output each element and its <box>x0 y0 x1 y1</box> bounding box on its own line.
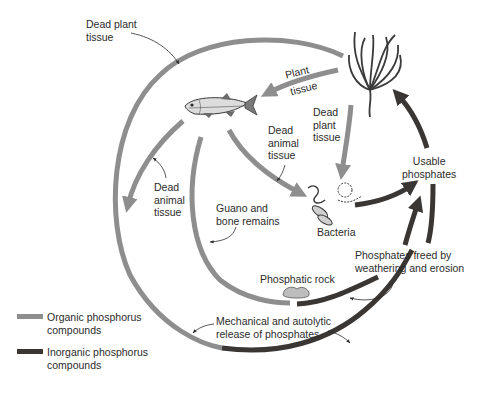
legend-swatch-organic <box>17 314 43 319</box>
label-phosphatic-rock: Phosphatic rock <box>260 273 335 286</box>
pointer-mechanical-left <box>193 324 214 333</box>
legend-swatch-inorganic <box>17 349 43 354</box>
pointer-dead-plant <box>131 33 179 64</box>
label-dead-animal-tissue-left: Dead animal tissue <box>154 181 185 219</box>
label-dead-animal-tissue-center: Dead animal tissue <box>268 124 299 162</box>
label-dead-plant-tissue-inner: Dead plant tissue <box>313 106 340 144</box>
pointer-dead-animal-left <box>153 158 166 178</box>
label-guano: Guano and bone remains <box>216 202 280 227</box>
plant-icon <box>349 32 401 117</box>
bacteria-icon <box>308 183 362 227</box>
label-phosphates-freed: Phosphates freed by weathering and erosi… <box>355 249 464 274</box>
label-mechanical-release: Mechanical and autolytic release of phos… <box>216 315 331 340</box>
usable-to-plant-arrow <box>398 95 427 148</box>
pointer-guano <box>210 227 236 242</box>
label-usable-phosphates: Usable phosphates <box>402 155 456 180</box>
dead-plant-to-bacteria-arrow <box>342 105 351 172</box>
phosphatic-rock-icon <box>283 287 309 298</box>
fish-icon <box>185 93 257 118</box>
legend-label-inorganic: Inorganic phosphorus compounds <box>47 346 148 371</box>
right-inorganic-arc <box>428 184 433 243</box>
label-bacteria: Bacteria <box>317 226 356 239</box>
weathering-to-usable-arrow <box>405 203 418 245</box>
legend-label-organic: Organic phosphorus compounds <box>47 311 142 336</box>
bacteria-to-usable-arrow <box>355 185 412 205</box>
label-dead-plant-tissue-outer: Dead plant tissue <box>86 18 137 43</box>
